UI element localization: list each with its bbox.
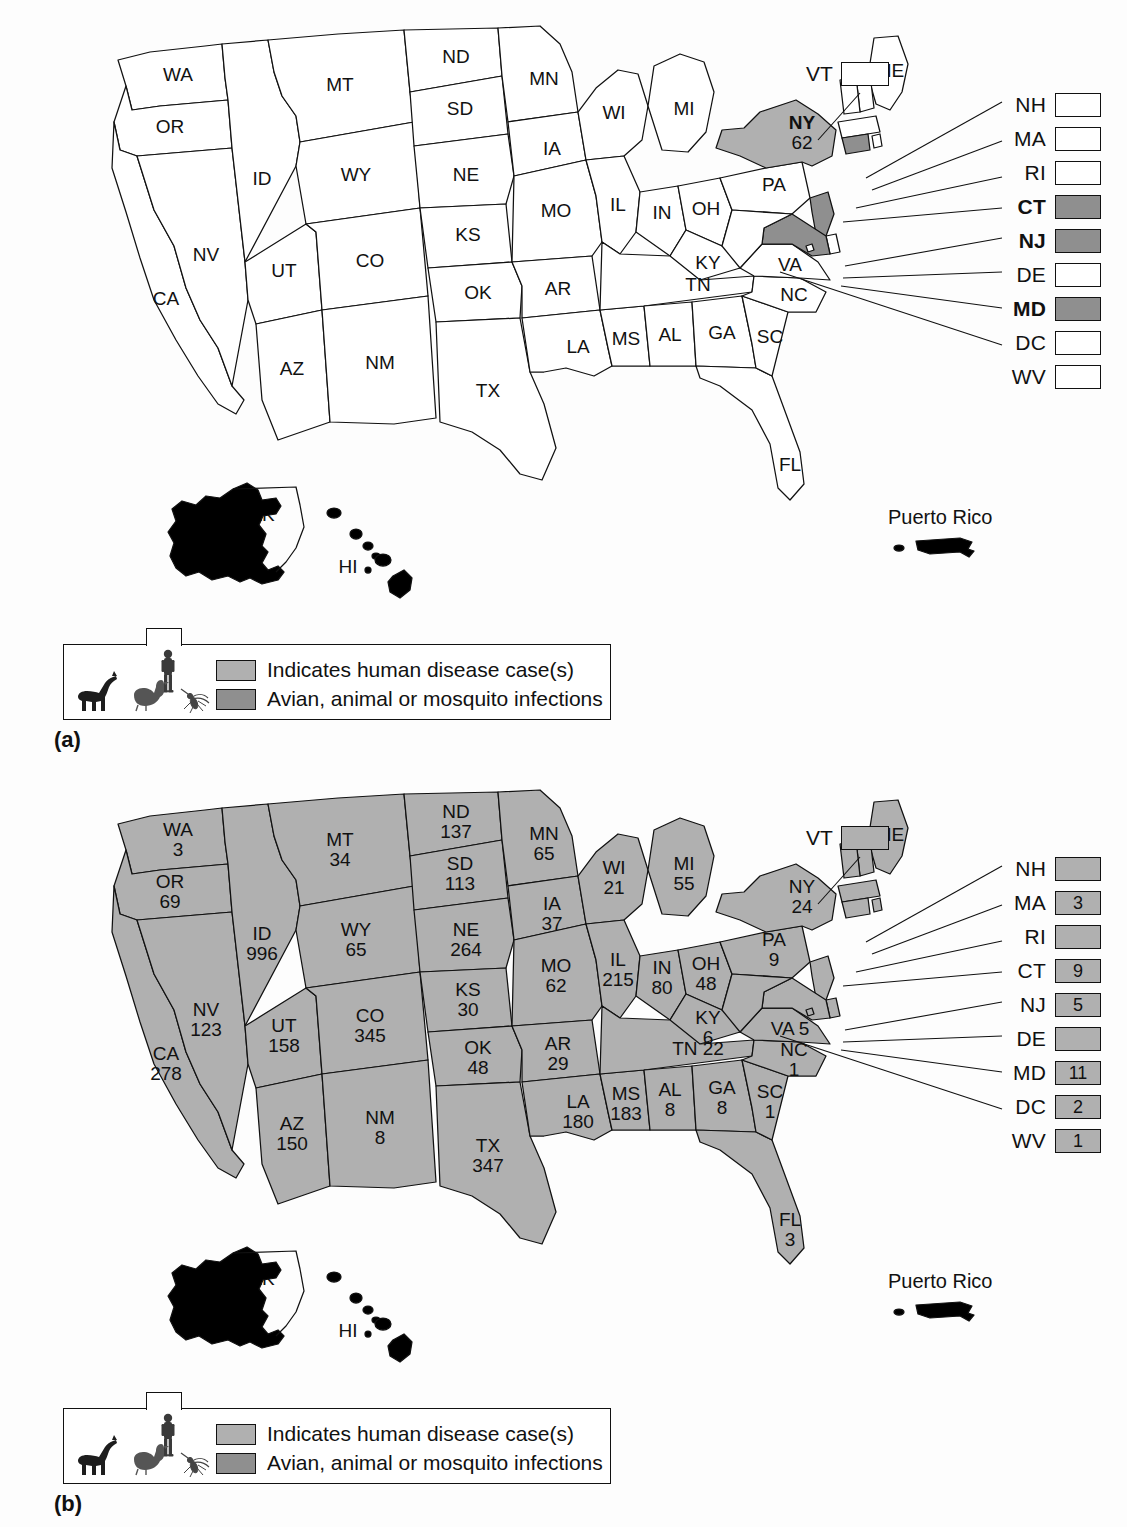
- state-label-az: AZ: [280, 358, 305, 379]
- state-label-tx: TX: [476, 380, 501, 401]
- state-label-mt: MT: [326, 74, 354, 95]
- side-list-abbr: DE: [1016, 263, 1046, 287]
- hawaii-shape-b: [327, 1272, 412, 1362]
- side-list-row-de: DE: [981, 1022, 1101, 1056]
- state-value-sc: 1: [765, 1101, 776, 1122]
- state-label-oh: OH: [692, 198, 721, 219]
- legend-swatch-avian: [216, 1453, 256, 1474]
- legend-label-avian: Avian, animal or mosquito infections: [267, 687, 603, 711]
- legend-label-human: Indicates human disease case(s): [267, 658, 574, 682]
- legend-row-human-a: Indicates human disease case(s): [216, 658, 574, 682]
- state-label-ky: KY: [695, 252, 721, 273]
- state-label-il: IL: [610, 194, 626, 215]
- state-label-nd: ND: [442, 801, 469, 822]
- state-label-ms: MS: [612, 328, 641, 349]
- state-label-in: IN: [653, 957, 672, 978]
- legend-swatch-human: [216, 660, 256, 681]
- side-list-swatch: 9: [1055, 959, 1101, 983]
- panel-tag-b: (b): [54, 1491, 82, 1517]
- state-label-wy: WY: [341, 919, 372, 940]
- state-label-nc: NC: [780, 284, 807, 305]
- side-list-abbr: NH: [1015, 93, 1046, 117]
- hawaii-shape-a: [327, 508, 412, 598]
- state-value-mt: 34: [329, 849, 351, 870]
- state-value-nv: 123: [190, 1019, 222, 1040]
- state-label-in: IN: [653, 202, 672, 223]
- state-value-oh: 48: [695, 973, 716, 994]
- state-value-co: 345: [354, 1025, 386, 1046]
- state-label-va: VA: [778, 254, 802, 275]
- state-value-ms: 183: [610, 1103, 642, 1124]
- figure-panel-b: WA3OR69CA278NV123ID996MT34WY65UT158AZ150…: [0, 764, 1127, 1527]
- legend-icon-group-a: [72, 649, 217, 719]
- state-label-pa: PA: [762, 174, 786, 195]
- state-label-nv: NV: [193, 999, 220, 1020]
- side-list-swatch: [1055, 195, 1101, 219]
- state-value-mo: 62: [545, 975, 566, 996]
- side-list-abbr: DC: [1015, 1095, 1046, 1119]
- state-value-mi: 55: [673, 873, 694, 894]
- side-list-swatch: 3: [1055, 891, 1101, 915]
- state-ct: [842, 134, 870, 154]
- side-list-row-md: MD: [981, 292, 1101, 326]
- state-ny: [716, 864, 836, 932]
- state-value-nc: 1: [789, 1059, 800, 1080]
- side-list-row-nj: NJ: [981, 224, 1101, 258]
- side-list-swatch: [1055, 857, 1101, 881]
- state-label-ar: AR: [545, 1033, 571, 1054]
- state-label-mi: MI: [673, 853, 694, 874]
- side-list-abbr: MA: [1014, 127, 1046, 151]
- state-label-ga: GA: [708, 322, 736, 343]
- bird-icon: [134, 680, 169, 711]
- state-value-ok: 48: [467, 1057, 488, 1078]
- state-ma: [838, 880, 880, 902]
- state-label-nd: ND: [442, 46, 469, 67]
- state-label-fl: FL: [779, 454, 801, 475]
- state-label-ga: GA: [708, 1077, 736, 1098]
- side-list-abbr: DC: [1015, 331, 1046, 355]
- state-value-il: 215: [602, 969, 634, 990]
- side-list-row-nh: NH: [981, 88, 1101, 122]
- side-list-row-ct: CT9: [981, 954, 1101, 988]
- side-list-abbr: CT: [1018, 959, 1046, 983]
- state-value-nm: 8: [375, 1127, 386, 1148]
- state-label-mn: MN: [529, 823, 559, 844]
- vt-callout-label: VT: [806, 62, 833, 86]
- side-list-abbr: CT: [1018, 195, 1046, 219]
- side-list-swatch: 2: [1055, 1095, 1101, 1119]
- state-label-ok: OK: [464, 1037, 492, 1058]
- puerto-rico-shape-a: [894, 538, 974, 557]
- side-state-list-b: NHMA3RICT9NJ5DEMD11DC2WV1: [981, 852, 1101, 1158]
- state-label-nm: NM: [365, 1107, 395, 1128]
- state-label-ar: AR: [545, 278, 571, 299]
- state-label-sc: SC: [757, 326, 783, 347]
- state-value-ut: 158: [268, 1035, 300, 1056]
- side-list-abbr: NJ: [1020, 993, 1046, 1017]
- state-label-id: ID: [253, 168, 272, 189]
- legend-swatch-avian: [216, 689, 256, 710]
- state-label-fl: FL: [779, 1209, 801, 1230]
- side-list-row-dc: DC: [981, 326, 1101, 360]
- state-value-mn: 65: [533, 843, 554, 864]
- side-list-abbr: MD: [1013, 297, 1046, 321]
- side-list-abbr: WV: [1012, 1129, 1046, 1153]
- state-label-sd: SD: [447, 98, 473, 119]
- state-value-nd: 137: [440, 821, 472, 842]
- state-value-pa: 9: [769, 949, 780, 970]
- state-label-nm: NM: [365, 352, 395, 373]
- side-list-row-ct: CT: [981, 190, 1101, 224]
- state-label-wa: WA: [163, 64, 193, 85]
- state-fl: [696, 366, 804, 500]
- side-list-row-ma: MA: [981, 122, 1101, 156]
- state-value-fl: 3: [785, 1229, 796, 1250]
- legend-box-b: Indicates human disease case(s) Avian, a…: [63, 1408, 611, 1484]
- state-value-ks: 30: [457, 999, 478, 1020]
- puerto-rico-shape-b: [894, 1302, 974, 1321]
- state-label-ia: IA: [543, 138, 561, 159]
- state-label-or: OR: [156, 871, 185, 892]
- alaska-shape-a: [168, 483, 304, 584]
- side-list-row-md: MD11: [981, 1056, 1101, 1090]
- side-list-swatch: 1: [1055, 1129, 1101, 1153]
- state-label-wi: WI: [602, 102, 625, 123]
- side-list-abbr: MA: [1014, 891, 1046, 915]
